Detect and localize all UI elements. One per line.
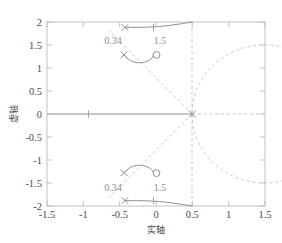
x-tick-label: -1	[79, 209, 88, 220]
y-tick-label: 1	[37, 63, 42, 74]
y-tick-label: -0.5	[25, 132, 42, 143]
y-tick-label: 0.5	[29, 86, 42, 97]
y-tick-label: 0	[37, 109, 42, 120]
y-tick-label: -2	[33, 201, 42, 212]
root-locus-canvas: -1.5 -1 -0.5 0 0.5 1 1.5 2 1.5 1 0.5 0 -…	[0, 0, 282, 243]
figure-background	[0, 0, 282, 243]
x-tick-label: 0.5	[186, 209, 199, 220]
natural-frequency-label-upper: 1.5	[154, 35, 167, 46]
y-tick-label: -1.5	[25, 178, 42, 189]
natural-frequency-label-lower: 1.5	[154, 182, 167, 193]
damping-ratio-label-upper: 0.34	[104, 35, 122, 46]
y-axis-title: 虚轴	[8, 105, 19, 123]
y-tick-label: 1.5	[29, 40, 42, 51]
root-locus-figure: -1.5 -1 -0.5 0 0.5 1 1.5 2 1.5 1 0.5 0 -…	[0, 0, 282, 243]
x-tick-label: -0.5	[111, 209, 128, 220]
x-axis-title: 实轴	[147, 224, 165, 235]
x-tick-label: 1	[226, 209, 231, 220]
damping-ratio-label-lower: 0.34	[104, 182, 122, 193]
y-tick-label: 2	[37, 17, 42, 28]
x-tick-label: 0	[153, 209, 158, 220]
y-tick-label: -1	[33, 155, 42, 166]
x-tick-label: 1.5	[258, 209, 271, 220]
